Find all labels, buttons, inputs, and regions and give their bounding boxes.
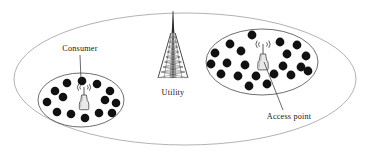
consumer-leader-line (80, 55, 81, 80)
consumer-node (59, 93, 68, 102)
consumer-node (248, 31, 257, 40)
network-topology-diagram: Utility (0, 0, 370, 159)
consumer-node (51, 87, 60, 96)
consumer-node (95, 109, 104, 118)
consumer-node (252, 72, 261, 81)
consumer-node (101, 96, 110, 105)
consumer-node (279, 62, 288, 71)
utility-label: Utility (162, 88, 185, 97)
consumer-node (287, 71, 296, 80)
consumer-node (78, 77, 87, 86)
consumer-node (302, 52, 311, 61)
consumer-node (270, 70, 279, 79)
consumer-node (237, 47, 246, 56)
consumer-node (241, 61, 250, 70)
consumer-node (106, 87, 115, 96)
left-cluster (38, 73, 124, 127)
consumer-node (234, 72, 243, 81)
figure-canvas: Utility (0, 0, 370, 159)
consumer-node (108, 109, 117, 118)
consumer-node (283, 50, 292, 59)
consumer-node (43, 98, 52, 107)
access-point-device-left (77, 84, 90, 110)
consumer-node (223, 59, 232, 68)
right-cluster (206, 29, 318, 95)
consumer-node (63, 79, 72, 88)
consumer-node (304, 67, 313, 76)
consumer-node (245, 82, 254, 91)
consumer-node (263, 80, 272, 89)
access-point-device-right (256, 41, 270, 70)
consumer-node (207, 60, 216, 69)
consumer-node (217, 70, 226, 79)
consumer-node (112, 99, 121, 108)
consumer-node (276, 38, 285, 47)
consumer-node (293, 41, 302, 50)
consumer-node (53, 108, 62, 117)
consumer-node (93, 80, 102, 89)
consumer-node (67, 110, 76, 119)
consumer-node (211, 49, 220, 58)
consumer-node (226, 40, 235, 49)
utility-tower (158, 11, 188, 78)
consumer-label: Consumer (62, 44, 97, 53)
consumer-node (81, 114, 90, 123)
access-point-label: Access point (267, 112, 312, 121)
